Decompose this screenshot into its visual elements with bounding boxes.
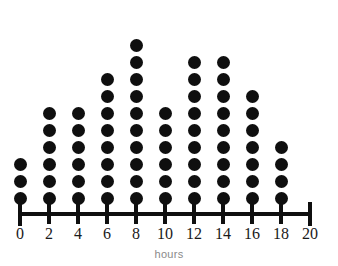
data-dot	[130, 90, 143, 103]
data-dot	[101, 124, 114, 137]
data-dot	[130, 158, 143, 171]
data-dot	[217, 141, 230, 154]
x-axis: 02468101214161820 hours	[0, 198, 338, 266]
data-dot	[72, 175, 85, 188]
data-dot	[217, 124, 230, 137]
data-dot	[246, 175, 259, 188]
data-dot	[130, 39, 143, 52]
data-dot	[72, 124, 85, 137]
data-dot	[246, 90, 259, 103]
data-dot	[43, 124, 56, 137]
dot-stack	[212, 52, 234, 205]
data-dot	[188, 90, 201, 103]
axis-tick	[192, 204, 196, 224]
data-dot	[275, 175, 288, 188]
data-dot	[246, 141, 259, 154]
data-dot	[43, 107, 56, 120]
data-dot	[72, 107, 85, 120]
data-dot	[130, 107, 143, 120]
dot-stack	[38, 103, 60, 205]
plot-area	[0, 0, 338, 205]
dot-stack	[241, 86, 263, 205]
data-dot	[159, 175, 172, 188]
data-dot	[217, 90, 230, 103]
axis-tick	[250, 204, 254, 224]
x-axis-title: hours	[0, 248, 338, 260]
dot-stack	[67, 103, 89, 205]
data-dot	[246, 124, 259, 137]
data-dot	[159, 124, 172, 137]
dot-plot-figure: 02468101214161820 hours	[0, 0, 338, 266]
axis-tick	[221, 204, 225, 224]
dot-stack	[125, 35, 147, 205]
data-dot	[14, 158, 27, 171]
data-dot	[101, 90, 114, 103]
data-dot	[130, 73, 143, 86]
data-dot	[130, 56, 143, 69]
data-dot	[188, 73, 201, 86]
data-dot	[275, 158, 288, 171]
data-dot	[188, 141, 201, 154]
data-dot	[188, 56, 201, 69]
data-dot	[159, 158, 172, 171]
dot-stack	[270, 137, 292, 205]
axis-tick	[134, 204, 138, 224]
data-dot	[14, 175, 27, 188]
axis-tick-label: 20	[290, 226, 330, 242]
data-dot	[217, 73, 230, 86]
data-dot	[159, 141, 172, 154]
data-dot	[101, 158, 114, 171]
axis-tick	[76, 204, 80, 224]
data-dot	[188, 175, 201, 188]
data-dot	[188, 107, 201, 120]
data-dot	[101, 107, 114, 120]
data-dot	[159, 107, 172, 120]
data-dot	[246, 158, 259, 171]
axis-tick	[47, 204, 51, 224]
dot-stack	[154, 103, 176, 205]
data-dot	[43, 158, 56, 171]
data-dot	[217, 175, 230, 188]
data-dot	[130, 124, 143, 137]
data-dot	[43, 141, 56, 154]
data-dot	[188, 158, 201, 171]
axis-tick	[105, 204, 109, 224]
data-dot	[188, 124, 201, 137]
data-dot	[130, 175, 143, 188]
data-dot	[217, 107, 230, 120]
data-dot	[275, 141, 288, 154]
data-dot	[130, 141, 143, 154]
axis-tick	[163, 204, 167, 224]
data-dot	[43, 175, 56, 188]
axis-tick	[308, 202, 312, 226]
data-dot	[246, 107, 259, 120]
data-dot	[72, 141, 85, 154]
data-dot	[101, 175, 114, 188]
data-dot	[101, 141, 114, 154]
data-dot	[217, 56, 230, 69]
data-dot	[101, 73, 114, 86]
dot-stack	[96, 69, 118, 205]
axis-tick	[18, 202, 22, 226]
data-dot	[217, 158, 230, 171]
axis-tick	[279, 204, 283, 224]
dot-stack	[183, 52, 205, 205]
data-dot	[72, 158, 85, 171]
